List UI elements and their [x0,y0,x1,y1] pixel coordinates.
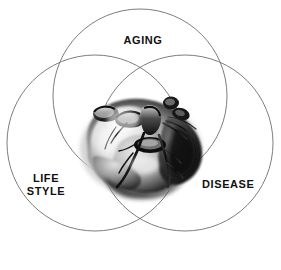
venn-label-aging: AGING [113,34,173,47]
circle-disease [97,55,273,231]
venn-label-disease: DISEASE [202,178,268,191]
venn-label-lifestyle: LIFE STYLE [22,172,70,197]
venn-diagram-figure: AGING LIFE STYLE DISEASE [0,0,281,270]
circle-lifestyle [7,55,183,231]
